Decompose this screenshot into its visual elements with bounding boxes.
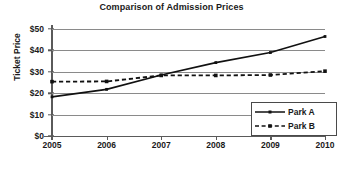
data-point-marker xyxy=(269,51,272,54)
data-point-marker xyxy=(105,80,109,84)
data-point-marker xyxy=(323,69,327,73)
data-point-marker xyxy=(269,73,273,77)
series-line-park-a xyxy=(52,36,325,96)
legend-line-solid-icon xyxy=(252,105,288,119)
series-lines xyxy=(0,0,343,169)
data-point-marker xyxy=(105,88,108,91)
data-point-marker xyxy=(214,74,218,78)
chart-container: Comparison of Admission Prices Ticket Pr… xyxy=(0,0,343,169)
legend-label-park-a: Park A xyxy=(288,107,315,117)
legend-label-park-b: Park B xyxy=(288,121,315,131)
legend-item-park-b: Park B xyxy=(252,118,336,134)
chart-legend: Park A Park B xyxy=(251,102,337,136)
data-point-marker xyxy=(324,35,327,38)
data-point-marker xyxy=(159,74,163,78)
legend-line-dashed-icon xyxy=(252,119,288,133)
data-point-marker xyxy=(50,80,54,84)
data-point-marker xyxy=(214,61,217,64)
data-point-marker xyxy=(51,95,54,98)
series-line-park-b xyxy=(52,71,325,81)
